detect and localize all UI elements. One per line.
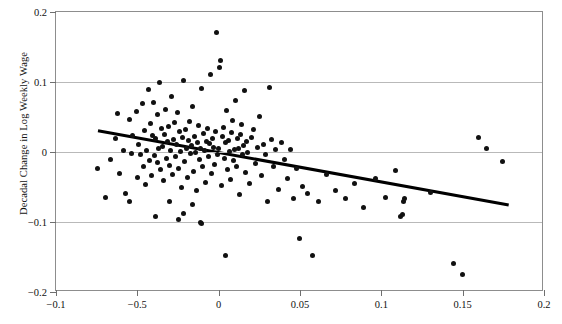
scatter-point	[123, 191, 128, 196]
scatter-point	[257, 114, 262, 119]
scatter-point	[194, 188, 199, 193]
scatter-point	[221, 125, 226, 130]
scatter-point	[213, 129, 218, 134]
scatter-point	[167, 199, 172, 204]
scatter-point	[460, 272, 465, 277]
x-axis-tick-label: −0.5	[128, 299, 147, 310]
scatter-point	[276, 187, 281, 192]
x-axis-tick-label: 0.2	[537, 299, 550, 310]
scatter-point	[215, 152, 220, 157]
scatter-point	[177, 129, 182, 134]
scatter-point	[263, 152, 268, 157]
scatter-point	[95, 166, 100, 171]
scatter-point	[146, 87, 151, 92]
scatter-point	[155, 112, 160, 117]
scatter-point	[218, 58, 223, 63]
scatter-point	[383, 195, 388, 200]
scatter-point	[333, 188, 338, 193]
y-axis-tick	[50, 152, 56, 153]
scatter-point	[305, 191, 310, 196]
scatter-point	[206, 154, 211, 159]
x-axis-tick-label: 0.1	[375, 299, 388, 310]
scatter-point	[140, 101, 145, 106]
scatter-point	[179, 185, 184, 190]
scatter-point	[167, 163, 172, 168]
scatter-point	[163, 107, 168, 112]
scatter-point	[300, 184, 305, 189]
y-axis-tick-label: 0.2	[34, 7, 47, 18]
scatter-point	[361, 205, 366, 210]
scatter-point	[127, 117, 132, 122]
scatter-point	[197, 157, 202, 162]
gridline-y	[56, 82, 542, 83]
scatter-point	[214, 30, 219, 35]
scatter-point	[195, 140, 200, 145]
scatter-point	[181, 211, 186, 216]
x-axis-tick-label: 0.15	[453, 299, 471, 310]
scatter-point	[238, 132, 243, 137]
scatter-point	[219, 183, 224, 188]
scatter-point	[352, 181, 357, 186]
scatter-point	[212, 162, 217, 167]
scatter-point	[172, 120, 177, 125]
scatter-point	[183, 127, 188, 132]
scatter-point	[373, 176, 378, 181]
x-axis-tick	[300, 290, 301, 296]
scatter-point	[159, 126, 164, 131]
scatter-point	[279, 140, 284, 145]
scatter-point	[103, 195, 108, 200]
scatter-point	[113, 136, 118, 141]
plot-area: 0.20.10−0.1−0.2−0.1−0.500.050.10.150.2	[55, 11, 543, 291]
scatter-point	[316, 199, 321, 204]
scatter-point	[297, 236, 302, 241]
scatter-point	[224, 108, 229, 113]
scatter-point	[229, 130, 234, 135]
scatter-point	[233, 98, 238, 103]
scatter-point	[205, 126, 210, 131]
scatter-point	[187, 119, 192, 124]
scatter-point	[153, 136, 158, 141]
scatter-point	[165, 139, 170, 144]
scatter-point	[169, 94, 174, 99]
scatter-point	[451, 261, 456, 266]
scatter-point	[484, 146, 489, 151]
scatter-point	[242, 88, 247, 93]
x-axis-tick	[381, 290, 382, 296]
scatter-point	[217, 65, 222, 70]
scatter-point	[253, 161, 258, 166]
x-axis-tick-label: 0	[216, 299, 221, 310]
scatter-point	[393, 168, 398, 173]
scatter-point	[196, 123, 201, 128]
x-axis-tick	[219, 290, 220, 296]
scatter-point	[175, 110, 180, 115]
scatter-point	[234, 164, 239, 169]
scatter-point	[166, 124, 171, 129]
scatter-point	[191, 169, 196, 174]
scatter-point	[157, 80, 162, 85]
x-axis-tick	[137, 290, 138, 296]
scatter-point	[255, 145, 260, 150]
scatter-point	[129, 151, 134, 156]
scatter-point	[121, 148, 126, 153]
scatter-point	[142, 128, 147, 133]
scatter-point	[162, 132, 167, 137]
scatter-point	[147, 158, 152, 163]
scatter-point	[176, 166, 181, 171]
scatter-point	[223, 253, 228, 258]
scatter-point	[151, 100, 156, 105]
scatter-point	[228, 177, 233, 182]
scatter-point	[170, 172, 175, 177]
chart-root: Decadal Change in Log Weekly Wage 0.20.1…	[0, 0, 562, 324]
scatter-point	[200, 164, 205, 169]
scatter-point	[130, 133, 135, 138]
scatter-point	[190, 104, 195, 109]
scatter-point	[243, 170, 248, 175]
scatter-point	[428, 190, 433, 195]
scatter-point	[182, 159, 187, 164]
scatter-point	[235, 136, 240, 141]
scatter-point	[271, 164, 276, 169]
scatter-point	[178, 149, 183, 154]
scatter-point	[160, 144, 165, 149]
scatter-point	[291, 196, 296, 201]
scatter-point	[189, 143, 194, 148]
